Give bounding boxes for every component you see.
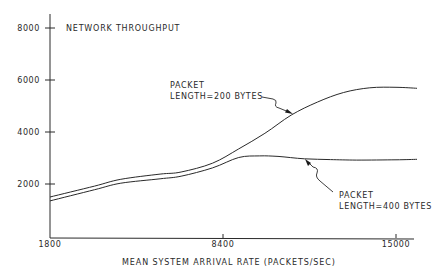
annotation-200-line1: PACKET (170, 81, 205, 90)
annotation-200-bytes: PACKET LENGTH=200 BYTES (170, 81, 293, 114)
arrow-head-200 (285, 109, 293, 114)
throughput-chart: 2000400060008000 1800840015000 NETWORK T… (0, 0, 444, 278)
annotation-200-line2: LENGTH=200 BYTES (170, 92, 263, 101)
x-tick-label: 15000 (382, 240, 410, 249)
leader-line-200 (262, 97, 290, 113)
y-tick-label: 6000 (17, 76, 40, 85)
annotation-400-line1: PACKET (339, 191, 374, 200)
y-ticks: 2000400060008000 (17, 24, 55, 189)
x-axis-label: MEAN SYSTEM ARRIVAL RATE (PACKETS/SEC) (122, 258, 336, 267)
arrow-head-400 (305, 159, 311, 166)
y-tick-label: 8000 (17, 24, 40, 33)
chart-title: NETWORK THROUGHPUT (66, 24, 180, 33)
leader-line-400 (307, 161, 333, 192)
annotation-400-line2: LENGTH=400 BYTES (339, 202, 432, 211)
y-tick-label: 2000 (17, 180, 40, 189)
x-ticks: 1800840015000 (39, 234, 411, 249)
x-axis (50, 238, 414, 239)
annotation-400-bytes: PACKET LENGTH=400 BYTES (305, 159, 432, 211)
series-line-200-bytes (50, 87, 417, 197)
x-tick-label: 8400 (212, 240, 235, 249)
x-tick-label: 1800 (39, 240, 62, 249)
y-tick-label: 4000 (17, 128, 40, 137)
